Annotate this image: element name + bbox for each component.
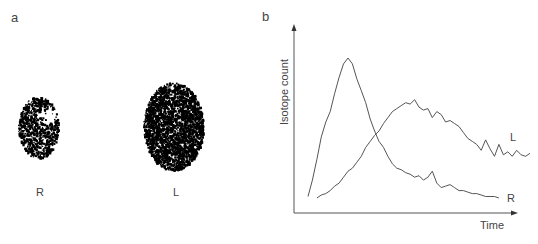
kidney-l-dot bbox=[172, 118, 174, 120]
kidney-l-dot bbox=[172, 159, 174, 161]
kidney-l-dot bbox=[169, 121, 171, 123]
kidney-l-dot bbox=[144, 124, 146, 126]
kidney-r-dot bbox=[23, 136, 24, 137]
kidney-l-dot bbox=[178, 135, 179, 136]
kidney-r-dot bbox=[52, 144, 54, 146]
kidney-l-dot bbox=[163, 128, 165, 130]
kidney-l-dot bbox=[158, 117, 159, 118]
kidney-l-dot bbox=[147, 110, 148, 111]
kidney-r-dot bbox=[31, 110, 32, 111]
kidney-r-dot bbox=[49, 132, 50, 133]
kidney-r-dot bbox=[36, 135, 38, 137]
kidney-l-dot bbox=[179, 87, 181, 89]
kidney-l-dot bbox=[156, 92, 157, 93]
kidney-l-dot bbox=[180, 145, 182, 147]
kidney-r-dot bbox=[34, 114, 36, 116]
kidney-l-dot bbox=[168, 111, 170, 113]
kidney-l-dot bbox=[169, 166, 170, 167]
kidney-r-dot bbox=[28, 101, 29, 102]
kidney-r-dot bbox=[35, 125, 37, 127]
kidney-r-dot bbox=[23, 117, 25, 119]
kidney-l-dot bbox=[151, 154, 153, 156]
kidney-l-dot bbox=[163, 136, 165, 138]
kidney-l-dot bbox=[172, 91, 174, 93]
kidney-r-dot bbox=[40, 123, 42, 125]
kidney-l-dot bbox=[185, 145, 187, 147]
kidney-l-dot bbox=[184, 85, 185, 86]
kidney-l-dot bbox=[188, 148, 190, 150]
kidney-l-dot bbox=[155, 105, 157, 107]
kidney-r-dot bbox=[53, 130, 55, 132]
kidney-l-dot bbox=[169, 143, 171, 145]
kidney-l-dot bbox=[183, 130, 185, 132]
kidney-l-dot bbox=[179, 122, 181, 124]
kidney-r-dot bbox=[27, 106, 30, 109]
kidney-r-dot bbox=[50, 143, 51, 144]
kidney-l-dot bbox=[157, 140, 159, 142]
kidney-l-dot bbox=[184, 161, 186, 163]
kidney-l-dot bbox=[160, 106, 161, 107]
kidney-l-dot bbox=[173, 161, 174, 162]
kidney-r-dot bbox=[57, 119, 59, 121]
kidney-r-dot bbox=[35, 109, 36, 110]
kidney-l-dot bbox=[181, 110, 183, 112]
kidney-l-dot bbox=[184, 113, 186, 115]
kidney-l-dot bbox=[194, 127, 195, 128]
kidney-l-dot bbox=[185, 157, 186, 158]
kidney-r-dot bbox=[41, 131, 42, 132]
kidney-l-dot bbox=[158, 89, 159, 90]
kidney-r-dot bbox=[33, 121, 35, 123]
kidney-l-dot bbox=[160, 89, 163, 92]
kidney-l-dot bbox=[151, 125, 153, 127]
kidney-r-dot bbox=[43, 150, 45, 152]
kidney-l-dot bbox=[172, 121, 173, 122]
kidney-l-dot bbox=[157, 120, 158, 121]
kidney-l-dot bbox=[166, 169, 168, 171]
kidney-l-dot bbox=[185, 117, 187, 119]
kidney-r-dot bbox=[23, 113, 25, 115]
kidney-l-dot bbox=[182, 152, 184, 154]
kidney-l-dot bbox=[178, 124, 180, 126]
kidney-l-dot bbox=[189, 100, 191, 102]
kidney-l-dot bbox=[175, 89, 177, 91]
kidney-r-dot bbox=[29, 147, 30, 148]
kidney-l-dot bbox=[189, 102, 192, 105]
kidney-l-dot bbox=[182, 106, 184, 108]
kidney-l-dot bbox=[149, 130, 151, 132]
kidney-l-dot bbox=[180, 90, 182, 92]
kidney-l-dot bbox=[156, 98, 157, 99]
kidney-l-dot bbox=[175, 115, 176, 116]
kidney-l-dot bbox=[167, 140, 169, 142]
kidney-l-dot bbox=[183, 150, 185, 152]
kidney-l-dot bbox=[170, 151, 171, 152]
kidney-r-dot bbox=[24, 137, 25, 138]
kidney-r-dot bbox=[44, 125, 45, 126]
kidney-l-dot bbox=[184, 111, 186, 113]
kidney-l-dot bbox=[149, 148, 151, 150]
kidney-r-dot bbox=[39, 132, 41, 134]
kidney-l-dot bbox=[150, 135, 152, 137]
kidney-l-dot bbox=[175, 170, 176, 171]
kidney-l-dot bbox=[171, 94, 173, 96]
kidney-l-dot bbox=[146, 142, 148, 144]
kidney-l-dot bbox=[161, 149, 162, 150]
kidney-l-dot bbox=[172, 147, 174, 149]
kidney-l-dot bbox=[195, 139, 197, 141]
kidney-l-dot bbox=[187, 96, 188, 97]
kidney-l-dot bbox=[200, 128, 202, 130]
kidney-l-dot bbox=[186, 154, 188, 156]
kidney-r-dot bbox=[22, 130, 24, 132]
kidney-r-dot bbox=[25, 136, 26, 137]
series-l-line bbox=[317, 100, 530, 198]
kidney-r-dot bbox=[33, 156, 34, 157]
kidney-l-dot bbox=[184, 164, 186, 166]
kidney-l-dot bbox=[149, 151, 151, 153]
kidney-r-dot bbox=[52, 107, 55, 110]
kidney-l-dot bbox=[160, 138, 162, 140]
kidney-r-dot bbox=[52, 136, 55, 139]
kidney-r-dot bbox=[25, 126, 27, 128]
kidney-r-dot bbox=[39, 109, 41, 111]
kidney-r-dot bbox=[21, 120, 23, 122]
kidney-l-dot bbox=[189, 131, 191, 133]
kidney-l-dot bbox=[179, 99, 181, 101]
